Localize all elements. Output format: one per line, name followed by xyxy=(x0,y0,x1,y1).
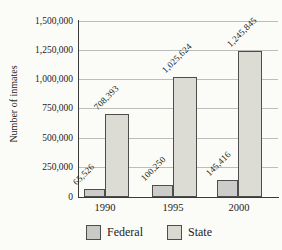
bar-federal-1990 xyxy=(84,189,105,197)
y-tick-1000000: 1,000,000 xyxy=(11,74,73,84)
x-tick-1990: 1990 xyxy=(83,202,127,214)
bar-federal-1995 xyxy=(152,185,173,197)
bar-state-2000 xyxy=(238,51,262,197)
bar-state-1995 xyxy=(173,77,197,197)
value-label-state-1995: 1,025,624 xyxy=(160,41,194,75)
value-label-federal-1995: 100,250 xyxy=(139,154,168,183)
bar-federal-2000 xyxy=(217,180,238,197)
value-label-federal-2000: 145,416 xyxy=(204,149,233,178)
legend-swatch-state xyxy=(167,225,182,240)
y-tick-500000: 500,000 xyxy=(11,133,73,143)
legend-label-federal: Federal xyxy=(107,224,143,240)
y-tick-1250000: 1,250,000 xyxy=(11,45,73,55)
y-tick-250000: 250,000 xyxy=(11,162,73,172)
y-tick-1500000: 1,500,000 xyxy=(11,16,73,26)
legend-label-state: State xyxy=(188,224,212,240)
y-tick-0: 0 xyxy=(11,192,73,202)
legend: Federal State xyxy=(86,224,212,240)
x-axis-line xyxy=(78,197,279,198)
y-axis-title: Number of inmates xyxy=(8,56,20,152)
x-tick-1995: 1995 xyxy=(151,202,195,214)
value-label-federal-1990: 65,526 xyxy=(71,162,96,187)
legend-swatch-federal xyxy=(86,225,101,240)
x-tick-2000: 2000 xyxy=(217,202,261,214)
bar-state-1990 xyxy=(105,114,129,197)
y-tick-750000: 750,000 xyxy=(11,103,73,113)
bar-chart-inmates: 1,500,000 1,250,000 1,000,000 750,000 50… xyxy=(0,0,282,250)
